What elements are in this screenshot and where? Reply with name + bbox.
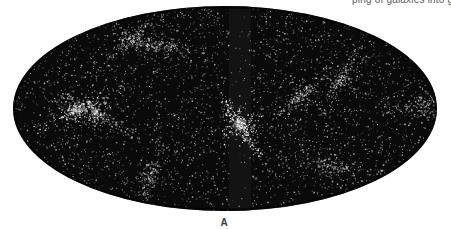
panel-label: A xyxy=(218,217,230,229)
left-knot-glow xyxy=(90,108,100,116)
zone-of-avoidance xyxy=(229,0,251,216)
all-sky-galaxy-map xyxy=(0,0,451,216)
central-cluster-glow xyxy=(232,118,248,132)
sky-map-svg xyxy=(0,0,451,216)
